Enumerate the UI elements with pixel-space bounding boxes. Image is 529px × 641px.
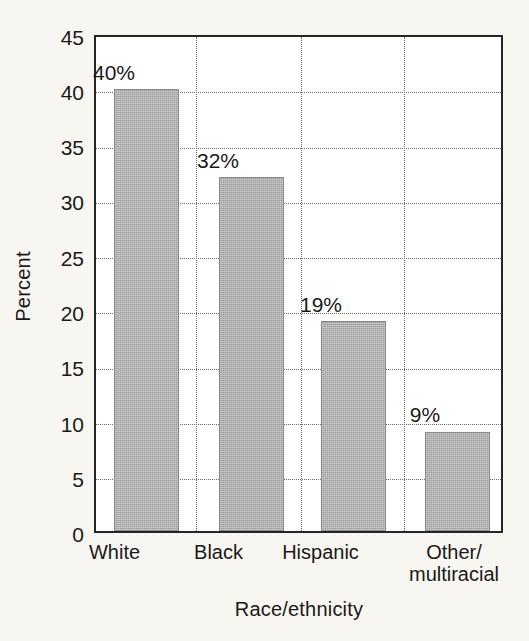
bar-black <box>219 177 284 531</box>
y-tick-label-40: 40 <box>36 82 84 103</box>
y-tick-label-25: 25 <box>36 248 84 269</box>
bar-other <box>425 432 490 532</box>
x-axis-title: Race/ethnicity <box>94 598 504 621</box>
bar-value-black: 32% <box>186 150 250 171</box>
y-tick-label-5: 5 <box>36 469 84 490</box>
bar-hispanic <box>321 321 386 531</box>
bar-white <box>114 89 179 531</box>
category-label-black: Black <box>166 541 271 563</box>
category-label-hispanic: Hispanic <box>268 541 373 563</box>
bar-chart-figure: Percent Race/ethnicity 0 5 10 15 20 25 3… <box>0 0 529 641</box>
y-tick-label-35: 35 <box>36 137 84 158</box>
y-tick-label-10: 10 <box>36 414 84 435</box>
category-label-other: Other/ multiracial <box>392 541 516 586</box>
plot-inner <box>96 37 501 531</box>
y-tick-label-15: 15 <box>36 358 84 379</box>
y-tick-label-30: 30 <box>36 192 84 213</box>
category-label-white: White <box>62 541 167 563</box>
gridline-x-3 <box>404 37 405 531</box>
bar-value-white: 40% <box>82 62 146 83</box>
y-axis-title: Percent <box>12 217 35 357</box>
bar-value-other: 9% <box>393 404 457 425</box>
bar-value-hispanic: 19% <box>289 294 353 315</box>
y-tick-label-45: 45 <box>36 27 84 48</box>
gridline-x-2 <box>301 37 302 531</box>
y-tick-label-20: 20 <box>36 303 84 324</box>
gridline-x-1 <box>196 37 197 531</box>
plot-area <box>94 35 503 533</box>
